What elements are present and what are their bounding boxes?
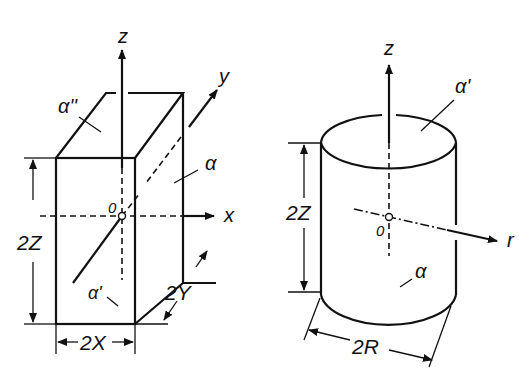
prism-top-back-edge <box>128 93 183 158</box>
r-axis-arrow <box>447 230 497 241</box>
depth-dim-label: 2Y <box>164 281 193 304</box>
origin-point <box>119 213 126 220</box>
r-axis-hidden <box>354 209 447 230</box>
top-face-label: α'' <box>58 95 78 117</box>
y-axis-arrow <box>189 90 217 127</box>
cylinder-bottom-arc <box>321 295 456 325</box>
diameter-ext-right <box>429 306 451 367</box>
origin-point <box>386 214 393 221</box>
cylinder-diagram: z r 0 α' α 2Z 2R <box>285 37 515 367</box>
x-axis-label: x <box>223 204 235 226</box>
z-axis-label: z <box>117 25 128 47</box>
y-axis-label: y <box>217 65 230 87</box>
front-face-leader <box>107 297 118 306</box>
height-dim-label: 2Z <box>285 201 312 224</box>
top-face-label: α' <box>455 75 471 97</box>
height-dim-label: 2Z <box>16 231 43 254</box>
side-face-leader <box>174 170 198 183</box>
prism-diagram: z y x 0 α'' α α' 2Z 2X 2Y <box>16 25 235 354</box>
origin-label: 0 <box>108 199 117 216</box>
y-axis-hidden <box>122 193 140 216</box>
z-axis-label: z <box>383 37 394 59</box>
diameter-dim-label: 2R <box>351 335 379 358</box>
width-dim-label: 2X <box>79 331 107 354</box>
r-axis-label: r <box>507 229 515 251</box>
side-face-label: α <box>415 260 427 282</box>
top-face-leader <box>421 100 454 131</box>
side-face-label: α <box>205 152 217 174</box>
front-face-label: α' <box>88 283 102 303</box>
prism-hidden-edge <box>146 137 181 183</box>
depth-dim-arrow-up <box>196 251 207 267</box>
side-face-leader <box>400 279 412 287</box>
diameter-ext-left <box>304 298 320 340</box>
origin-label: 0 <box>376 222 385 239</box>
y-axis-back <box>73 216 122 283</box>
diameter-arrow-left <box>309 330 350 340</box>
diameter-arrow-right <box>389 350 432 360</box>
